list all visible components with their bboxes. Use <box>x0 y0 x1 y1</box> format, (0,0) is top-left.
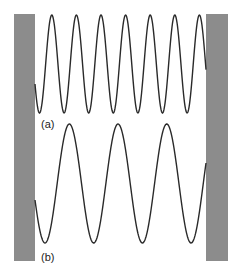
wave-a-label: (a) <box>41 118 54 130</box>
wave-b-curve <box>35 124 206 243</box>
right-wall <box>206 14 228 261</box>
left-wall <box>14 14 35 261</box>
wave-b-label: (b) <box>41 251 54 263</box>
standing-wave-diagram: (a) (b) <box>0 0 240 278</box>
wave-a-curve <box>35 15 206 113</box>
